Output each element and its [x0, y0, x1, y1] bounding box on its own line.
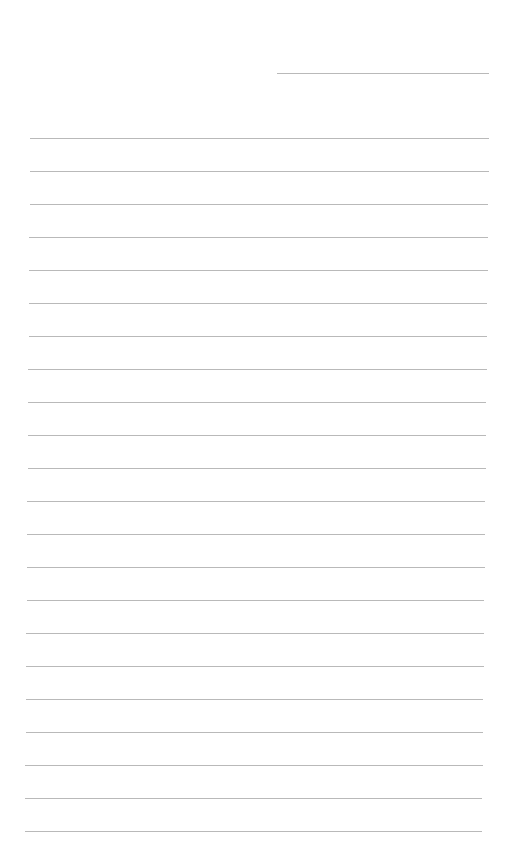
- ruled-line: [29, 270, 488, 271]
- ruled-line: [30, 138, 489, 139]
- ruled-line: [27, 567, 485, 568]
- ruled-line: [29, 237, 488, 238]
- ruled-line: [26, 633, 484, 634]
- ruled-line: [29, 336, 487, 337]
- ruled-line: [28, 435, 486, 436]
- ruled-line: [25, 831, 482, 832]
- ruled-line: [28, 468, 486, 469]
- ruled-line: [26, 666, 483, 667]
- ruled-line: [26, 732, 483, 733]
- ruled-line: [29, 303, 488, 304]
- ruled-line: [25, 798, 482, 799]
- ruled-line: [30, 171, 489, 172]
- header-date-line: [277, 73, 489, 74]
- ruled-line: [27, 501, 485, 502]
- ruled-line: [30, 204, 489, 205]
- ruled-line: [26, 699, 483, 700]
- ruled-line: [28, 402, 486, 403]
- ruled-line: [25, 765, 482, 766]
- ruled-line: [27, 534, 485, 535]
- ruled-line: [28, 369, 486, 370]
- ruled-line: [27, 600, 485, 601]
- lined-paper-page: [0, 0, 512, 860]
